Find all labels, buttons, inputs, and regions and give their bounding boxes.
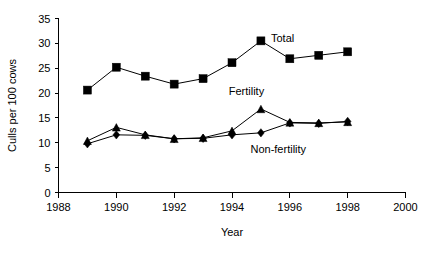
x-axis-tick-label: 1992 (162, 201, 186, 213)
data-point-marker (315, 51, 323, 59)
data-point-marker (170, 80, 178, 88)
data-point-marker (113, 131, 120, 139)
series-line (87, 109, 347, 141)
x-axis-tick-label: 1994 (220, 201, 244, 213)
series-fertility (83, 105, 351, 144)
y-axis-tick-label: 15 (38, 112, 50, 124)
line-chart: 0510152025303519881990199219941996199820… (0, 0, 430, 262)
data-point-marker (228, 59, 236, 67)
data-point-marker (112, 63, 120, 71)
series-line (87, 121, 347, 143)
x-axis: 1988199019921994199619982000 (46, 193, 417, 213)
data-point-marker (141, 72, 149, 80)
series-annotation-non-fertility: Non-fertility (250, 143, 306, 155)
x-axis-tick-label: 1990 (104, 201, 128, 213)
series-line (87, 41, 347, 90)
y-axis-tick-label: 0 (44, 187, 50, 199)
data-point-marker (112, 124, 120, 132)
y-axis-tick-label: 10 (38, 137, 50, 149)
data-point-marker (84, 140, 91, 148)
y-axis: 05101520253035 (38, 13, 58, 199)
data-point-marker (257, 37, 265, 45)
x-axis-tick-label: 1988 (46, 201, 70, 213)
y-axis-tick-label: 25 (38, 62, 50, 74)
series-annotation-total: Total (271, 32, 294, 44)
data-point-marker (199, 75, 207, 83)
data-point-marker (257, 105, 265, 113)
y-axis-title: Culls per 100 cows (6, 59, 18, 152)
series-total (83, 37, 351, 94)
y-axis-tick-label: 35 (38, 13, 50, 25)
x-axis-tick-label: 2000 (393, 201, 417, 213)
data-point-marker (286, 55, 294, 63)
series-annotation-fertility: Fertility (229, 85, 265, 97)
x-axis-tick-label: 1998 (335, 201, 359, 213)
data-point-marker (344, 48, 352, 56)
y-axis-tick-label: 30 (38, 37, 50, 49)
y-axis-tick-label: 20 (38, 87, 50, 99)
data-point-marker (258, 129, 265, 137)
x-axis-tick-label: 1996 (278, 201, 302, 213)
x-axis-title: Year (221, 226, 244, 238)
y-axis-tick-label: 5 (44, 162, 50, 174)
series-non-fertility (84, 117, 351, 148)
data-point-marker (83, 86, 91, 94)
chart-canvas: 0510152025303519881990199219941996199820… (0, 0, 430, 262)
